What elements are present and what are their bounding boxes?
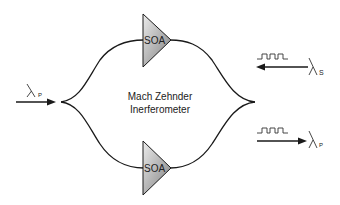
output-pump-arrowhead-icon [298, 138, 307, 145]
input-signal-arrowhead-icon [256, 64, 265, 71]
input-pump-arrowhead-icon [47, 99, 56, 106]
output-pump: P [257, 128, 323, 148]
soa-bottom: SOA [143, 141, 171, 195]
pulse-train-icon [257, 54, 288, 59]
soa-top: SOA [143, 14, 171, 67]
lambda-icon [309, 58, 317, 75]
mzi-diagram: SOA SOA Mach Zehnder Inerferometer P S P [0, 0, 340, 205]
mzi-title-line2: Inerferometer [130, 104, 191, 115]
input-pump-subscript: P [38, 92, 42, 98]
soa-bottom-label: SOA [144, 163, 165, 174]
mzi-title-line1: Mach Zehnder [128, 91, 193, 102]
input-signal: S [256, 54, 324, 76]
lambda-icon [27, 84, 35, 97]
output-pump-subscript: P [319, 142, 323, 148]
lambda-icon [309, 131, 317, 148]
input-signal-subscript: S [319, 69, 324, 76]
soa-top-label: SOA [144, 35, 165, 46]
pulse-train-icon [257, 128, 288, 133]
input-pump: P [16, 84, 56, 106]
